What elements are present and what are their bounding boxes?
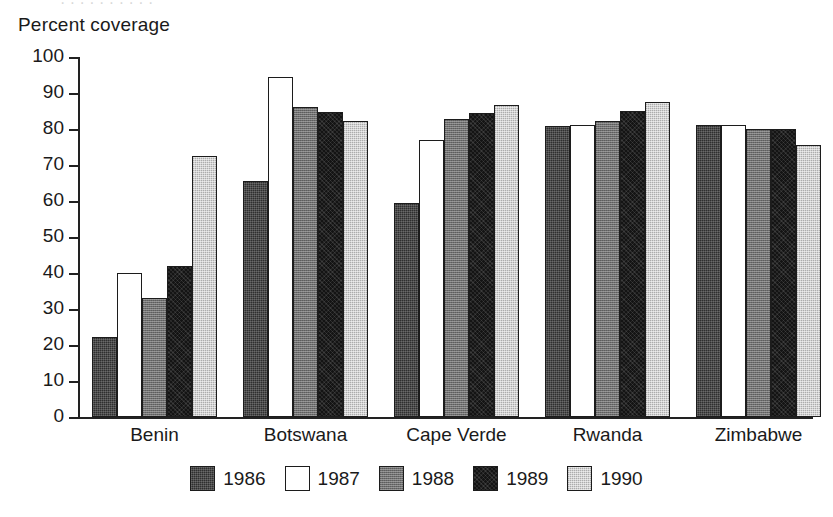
legend-item-1986[interactable]: 1986 (190, 466, 265, 491)
y-axis-title: Percent coverage (18, 14, 170, 36)
y-tick-label-100: 100 (32, 46, 64, 65)
legend-swatch-1988 (379, 466, 404, 491)
y-tick-label-50: 50 (43, 226, 64, 245)
x-label-zimbabwe: Zimbabwe (696, 424, 821, 446)
x-label-botswana: Botswana (243, 424, 368, 446)
y-tick-90: 90 (69, 93, 78, 95)
y-tick-label-0: 0 (53, 406, 64, 425)
y-tick-label-60: 60 (43, 190, 64, 209)
y-tick-30: 30 (69, 309, 78, 311)
y-axis-line (78, 57, 80, 419)
bar-zimbabwe-1988 (746, 129, 771, 417)
y-tick-50: 50 (69, 237, 78, 239)
scan-artifact-top-text: · · · · · · · · · · (60, 0, 360, 4)
y-tick-20: 20 (69, 345, 78, 347)
bar-cape-verde-1986 (394, 203, 419, 417)
bar-benin-1986 (92, 337, 117, 417)
y-tick-100: 100 (69, 57, 78, 59)
legend-label-1986: 1986 (223, 469, 265, 488)
bar-cape-verde-1989 (469, 113, 494, 417)
bar-group-rwanda (545, 57, 670, 417)
x-label-rwanda: Rwanda (545, 424, 670, 446)
bar-rwanda-1988 (595, 121, 620, 417)
bar-benin-1988 (142, 298, 167, 417)
legend-label-1988: 1988 (412, 469, 454, 488)
y-tick-40: 40 (69, 273, 78, 275)
bar-rwanda-1987 (570, 125, 595, 417)
legend-item-1989[interactable]: 1989 (473, 466, 548, 491)
y-tick-label-80: 80 (43, 118, 64, 137)
plot-area: 0102030405060708090100 (78, 57, 813, 417)
legend-swatch-1989 (473, 466, 498, 491)
y-tick-10: 10 (69, 381, 78, 383)
bar-zimbabwe-1986 (696, 125, 721, 417)
legend-label-1989: 1989 (506, 469, 548, 488)
bar-cape-verde-1988 (444, 119, 469, 417)
legend-swatch-1990 (567, 466, 592, 491)
x-axis-line (78, 417, 813, 419)
legend-label-1990: 1990 (600, 469, 642, 488)
y-tick-label-10: 10 (43, 370, 64, 389)
y-tick-label-20: 20 (43, 334, 64, 353)
legend-swatch-1987 (285, 466, 310, 491)
legend-swatch-1986 (190, 466, 215, 491)
bar-zimbabwe-1990 (796, 145, 821, 417)
y-tick-label-40: 40 (43, 262, 64, 281)
bar-botswana-1990 (343, 121, 368, 417)
y-tick-60: 60 (69, 201, 78, 203)
bar-cape-verde-1990 (494, 105, 519, 417)
bar-group-cape-verde (394, 57, 519, 417)
bar-group-botswana (243, 57, 368, 417)
chart-legend: 19861987198819891990 (0, 466, 833, 491)
y-tick-label-90: 90 (43, 82, 64, 101)
bar-chart: · · · · · · · · · · Percent coverage 010… (0, 0, 833, 517)
legend-item-1987[interactable]: 1987 (285, 466, 360, 491)
bar-zimbabwe-1989 (771, 129, 796, 417)
legend-item-1990[interactable]: 1990 (567, 466, 642, 491)
bar-botswana-1987 (268, 77, 293, 417)
y-tick-label-30: 30 (43, 298, 64, 317)
bar-group-benin (92, 57, 217, 417)
bar-botswana-1988 (293, 107, 318, 417)
x-label-benin: Benin (92, 424, 217, 446)
bar-benin-1989 (167, 266, 192, 417)
bar-rwanda-1986 (545, 126, 570, 417)
legend-label-1987: 1987 (318, 469, 360, 488)
bar-cape-verde-1987 (419, 140, 444, 417)
bar-botswana-1989 (318, 112, 343, 417)
bar-zimbabwe-1987 (721, 125, 746, 417)
y-tick-80: 80 (69, 129, 78, 131)
bar-rwanda-1989 (620, 111, 645, 417)
bar-group-zimbabwe (696, 57, 821, 417)
legend-item-1988[interactable]: 1988 (379, 466, 454, 491)
bar-botswana-1986 (243, 181, 268, 417)
bar-rwanda-1990 (645, 102, 670, 417)
y-tick-label-70: 70 (43, 154, 64, 173)
y-tick-0: 0 (69, 417, 78, 419)
x-label-cape-verde: Cape Verde (394, 424, 519, 446)
y-tick-70: 70 (69, 165, 78, 167)
bar-benin-1987 (117, 273, 142, 417)
bar-benin-1990 (192, 156, 217, 417)
